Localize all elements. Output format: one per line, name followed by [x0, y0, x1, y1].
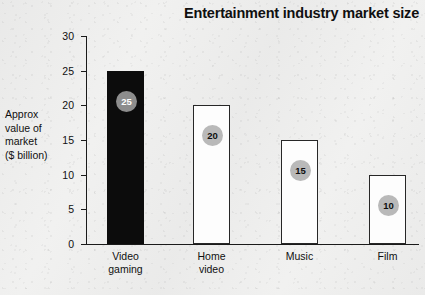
y-axis-tick-label: 25 [48, 66, 74, 76]
y-axis-tick-mark [81, 105, 86, 106]
y-axis-tick-label: 15 [48, 135, 74, 145]
y-axis-tick-label: 5 [48, 204, 74, 214]
x-axis-label-line: Music [265, 250, 335, 263]
bar-value-badge: 10 [378, 195, 399, 216]
x-axis-label-line: Home [177, 250, 247, 263]
x-axis-line [86, 244, 419, 245]
x-axis-label-line: gaming [91, 263, 161, 276]
bar-chart: Entertainment industry market size Appro… [0, 0, 425, 295]
chart-title: Entertainment industry market size [184, 5, 419, 21]
y-axis-tick-label: 10 [48, 170, 74, 180]
y-axis-tick-mark [81, 140, 86, 141]
bar-home-video[interactable]: 20 [193, 105, 230, 244]
y-axis-tick-mark [81, 71, 86, 72]
x-axis-label-line: video [177, 263, 247, 276]
y-axis-tick-mark [81, 244, 86, 245]
x-axis-label-line: Video [91, 250, 161, 263]
x-axis-category-label: Homevideo [177, 250, 247, 275]
y-axis-tick-mark [81, 175, 86, 176]
x-axis-category-label: Videogaming [91, 250, 161, 275]
y-axis-tick-mark [81, 36, 86, 37]
x-axis-category-label: Film [353, 250, 423, 263]
bar-value-badge: 15 [290, 160, 311, 181]
x-axis-category-label: Music [265, 250, 335, 263]
bar-video-gaming[interactable]: 25 [107, 71, 144, 244]
y-axis-tick-mark [81, 209, 86, 210]
bar-film[interactable]: 10 [369, 175, 406, 244]
bar-value-badge: 25 [116, 91, 137, 112]
y-axis-line [86, 36, 87, 245]
y-axis-tick-label: 30 [48, 31, 74, 41]
y-axis-title-line-2: value of [5, 122, 65, 136]
bar-music[interactable]: 15 [281, 140, 318, 244]
y-axis-tick-label: 0 [48, 239, 74, 249]
bar-value-badge: 20 [202, 125, 223, 146]
y-axis-tick-label: 20 [48, 100, 74, 110]
y-axis-title-line-4: ($ billion) [5, 149, 65, 163]
x-axis-label-line: Film [353, 250, 423, 263]
